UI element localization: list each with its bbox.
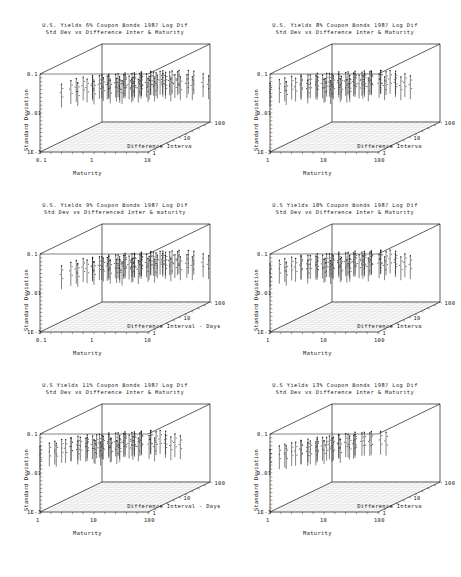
z-axis-label: Difference Interva: [357, 503, 422, 509]
z-axis-label: Difference Interva: [127, 143, 192, 149]
x-axis-label: Maturity: [73, 350, 102, 356]
z-tick-label-0: 1: [153, 330, 157, 336]
data-points: [39, 430, 182, 470]
plot-panel-11pct: U.S Yields 11% Coupon Bonds 1987 Log Dif…: [0, 360, 230, 552]
z-axis-label: Difference Interval - Days: [127, 503, 220, 509]
y-tick-label-1: 0.01: [27, 110, 41, 116]
x-tick-label-1: 10: [320, 337, 327, 343]
data-points: [60, 250, 209, 289]
x-tick-label-0: 0.1: [36, 337, 47, 343]
x-axis-label: Maturity: [303, 350, 332, 356]
x-tick-label-0: 1: [266, 517, 270, 523]
z-tick-label-1: 10: [414, 495, 421, 501]
x-tick-label-2: 10: [144, 157, 151, 163]
figure-sheet: U.S. Yields 6% Coupon Bonds 1987 Log Dif…: [0, 0, 461, 577]
y-tick-label-0: 0.1: [27, 251, 38, 257]
x-tick-label-0: 1: [266, 337, 270, 343]
z-axis-label: Difference Interva: [357, 143, 422, 149]
z-tick-label-0: 1: [153, 510, 157, 516]
data-points: [269, 431, 387, 473]
plot-canvas: [0, 0, 230, 192]
z-tick-label-1: 10: [414, 315, 421, 321]
z-tick-label-2: 100: [445, 480, 456, 486]
x-tick-label-1: 1: [90, 337, 94, 343]
x-tick-label-0: 1: [36, 517, 40, 523]
plot-panel-6pct: U.S. Yields 6% Coupon Bonds 1987 Log Dif…: [0, 0, 230, 192]
data-points: [60, 70, 209, 108]
y-tick-label-2: 1E-3: [257, 149, 271, 155]
x-tick-label-0: 1: [266, 157, 270, 163]
y-tick-label-2: 1E-3: [27, 329, 41, 335]
z-tick-label-0: 1: [383, 330, 387, 336]
x-tick-label-1: 10: [320, 517, 327, 523]
z-tick-label-2: 100: [215, 300, 226, 306]
x-tick-label-1: 1: [90, 157, 94, 163]
z-tick-label-1: 10: [184, 315, 191, 321]
y-tick-label-2: 1E-3: [27, 149, 41, 155]
plot-canvas: [0, 180, 230, 372]
z-axis-label: Difference Interval - Days: [127, 323, 220, 329]
x-tick-label-2: 100: [374, 517, 385, 523]
plot-canvas: [230, 0, 460, 192]
z-tick-label-2: 100: [215, 480, 226, 486]
z-tick-label-0: 1: [383, 510, 387, 516]
y-tick-label-1: 0.01: [27, 470, 41, 476]
z-tick-label-2: 100: [445, 120, 456, 126]
y-tick-label-2: 1E-3: [27, 509, 41, 515]
x-axis-label: Maturity: [303, 530, 332, 536]
x-tick-label-1: 10: [90, 517, 97, 523]
plot-panel-8pct: U.S. Yields 8% Coupon Bonds 1987 Log Dif…: [230, 0, 460, 192]
z-tick-label-0: 1: [153, 150, 157, 156]
y-tick-label-0: 0.1: [257, 431, 268, 437]
y-axis-label: Standard Deviation: [253, 449, 259, 511]
x-axis-label: Maturity: [303, 170, 332, 176]
z-tick-label-0: 1: [383, 150, 387, 156]
y-tick-label-0: 0.1: [27, 431, 38, 437]
x-tick-label-2: 100: [374, 157, 385, 163]
x-axis-label: Maturity: [73, 530, 102, 536]
y-tick-label-2: 1E-3: [257, 329, 271, 335]
x-tick-label-1: 10: [320, 157, 327, 163]
y-tick-label-1: 0.01: [257, 290, 271, 296]
data-points: [269, 70, 412, 107]
data-points: [269, 249, 412, 287]
plot-canvas: [0, 360, 230, 552]
y-tick-label-1: 0.01: [257, 470, 271, 476]
y-tick-label-1: 0.01: [27, 290, 41, 296]
y-axis-label: Standard Deviation: [253, 89, 259, 151]
z-tick-label-2: 100: [445, 300, 456, 306]
y-tick-label-0: 0.1: [257, 71, 268, 77]
plot-panel-10pct: U.S Yields 10% Coupon Bonds 1987 Log Dif…: [230, 180, 460, 372]
x-tick-label-2: 10: [144, 337, 151, 343]
z-axis-label: Difference Interva: [357, 323, 422, 329]
y-axis-label: Standard Deviation: [23, 89, 29, 151]
plot-panel-9pct: U.S. Yields 9% Coupon Bonds 1987 Log Dif…: [0, 180, 230, 372]
plot-canvas: [230, 180, 460, 372]
x-tick-label-2: 100: [374, 337, 385, 343]
y-tick-label-2: 1E-3: [257, 509, 271, 515]
y-tick-label-0: 0.1: [27, 71, 38, 77]
x-axis-label: Maturity: [73, 170, 102, 176]
z-tick-label-1: 10: [184, 495, 191, 501]
x-tick-label-2: 100: [144, 517, 155, 523]
y-tick-label-0: 0.1: [257, 251, 268, 257]
z-tick-label-1: 10: [184, 135, 191, 141]
y-axis-label: Standard Deviation: [253, 269, 259, 331]
z-tick-label-2: 100: [215, 120, 226, 126]
y-tick-label-1: 0.01: [257, 110, 271, 116]
x-tick-label-0: 0.1: [36, 157, 47, 163]
plot-panel-13pct: U.S Yields 13% Coupon Bonds 1987 Log Dif…: [230, 360, 460, 552]
y-axis-label: Standard Deviation: [23, 449, 29, 511]
y-axis-label: Standard Deviation: [23, 269, 29, 331]
z-tick-label-1: 10: [414, 135, 421, 141]
plot-canvas: [230, 360, 460, 552]
